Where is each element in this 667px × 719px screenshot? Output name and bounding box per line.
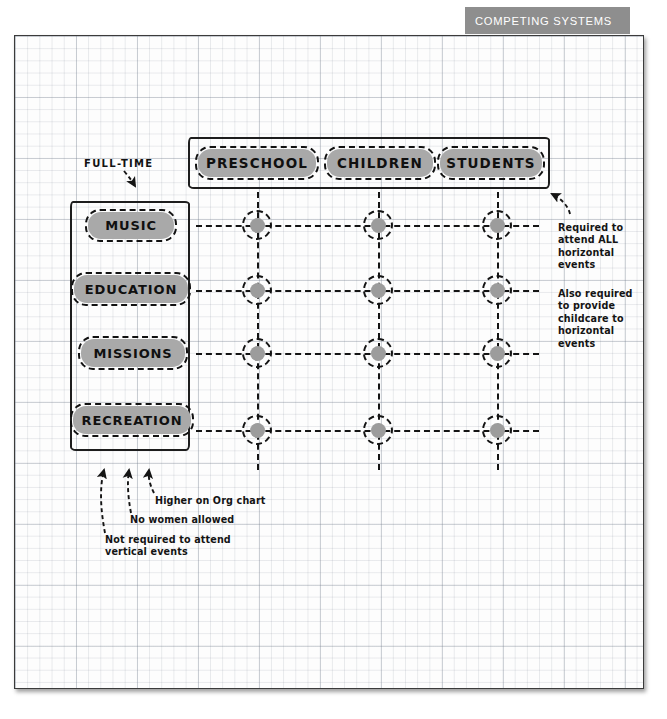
chip-students[interactable]: STUDENTS <box>440 149 542 177</box>
node-dot <box>490 346 505 361</box>
intersection-node[interactable] <box>482 338 512 368</box>
intersection-node[interactable] <box>363 275 393 305</box>
annotation-no-women-allowed: No women allowed <box>130 514 234 526</box>
node-dot <box>250 423 265 438</box>
chip-recreation[interactable]: RECREATION <box>73 406 191 434</box>
node-dot <box>371 218 386 233</box>
intersection-node[interactable] <box>363 415 393 445</box>
chip-label: MUSIC <box>105 218 157 233</box>
header-banner: COMPETING SYSTEMS <box>465 7 630 34</box>
page-title: COMPETING SYSTEMS <box>475 15 612 27</box>
chip-preschool[interactable]: PRESCHOOL <box>198 149 316 177</box>
intersection-node[interactable] <box>242 338 272 368</box>
node-dot <box>250 346 265 361</box>
node-dot <box>371 423 386 438</box>
intersection-node[interactable] <box>363 210 393 240</box>
node-dot <box>371 283 386 298</box>
chip-children[interactable]: CHILDREN <box>327 149 433 177</box>
node-dot <box>371 346 386 361</box>
chip-label: EDUCATION <box>85 282 178 297</box>
chip-label: MISSIONS <box>93 346 172 361</box>
full-time-label: FULL-TIME <box>84 158 153 169</box>
annotation-required-childcare: Also required to provide childcare to ho… <box>558 288 638 350</box>
slide-root: COMPETING SYSTEMS FULL-TIME PRESCHOOL CH… <box>0 0 667 719</box>
node-dot <box>250 218 265 233</box>
chip-label: RECREATION <box>81 413 182 428</box>
annotation-higher-on-org-chart: Higher on Org chart <box>155 495 266 507</box>
intersection-node[interactable] <box>242 275 272 305</box>
chip-label: PRESCHOOL <box>206 155 308 171</box>
chip-missions[interactable]: MISSIONS <box>81 339 185 367</box>
chip-music[interactable]: MUSIC <box>88 212 174 239</box>
chip-education[interactable]: EDUCATION <box>74 275 188 303</box>
node-dot <box>490 218 505 233</box>
node-dot <box>490 283 505 298</box>
chip-label: CHILDREN <box>337 155 423 171</box>
intersection-node[interactable] <box>363 338 393 368</box>
node-dot <box>250 283 265 298</box>
chip-label: STUDENTS <box>446 155 535 171</box>
intersection-node[interactable] <box>482 415 512 445</box>
intersection-node[interactable] <box>482 275 512 305</box>
annotation-required-attend-all: Required to attend ALL horizontal events <box>558 222 638 272</box>
intersection-node[interactable] <box>482 210 512 240</box>
annotation-not-required-vertical: Not required to attend vertical events <box>105 534 231 559</box>
intersection-node[interactable] <box>242 210 272 240</box>
intersection-node[interactable] <box>242 415 272 445</box>
node-dot <box>490 423 505 438</box>
